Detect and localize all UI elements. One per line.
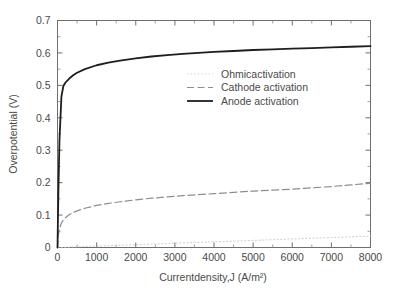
y-axis-label: Overpotential (V) [7,94,19,173]
y-axis-tick-labels: 00.10.20.30.40.50.60.7 [36,14,51,253]
legend-label-2: Anode activation [221,95,299,107]
y-tick-label: 0.2 [36,176,51,188]
y-tick-label: 0.1 [36,209,51,221]
x-axis-tick-labels: 010002000300040005000600070008000 [55,251,383,263]
y-tick-label: 0.3 [36,144,51,156]
data-series-group [58,46,371,247]
chart-figure: 010002000300040005000600070008000 00.10.… [0,0,410,297]
y-tick-label: 0 [45,241,51,253]
x-axis-ticks [58,21,371,248]
x-tick-label: 6000 [281,251,305,263]
y-tick-label: 0.4 [36,112,51,124]
x-tick-label: 3000 [163,251,187,263]
x-axis-label: Currentdensity,J (A/m²) [159,271,267,283]
x-tick-label: 8000 [359,251,383,263]
x-tick-label: 7000 [320,251,344,263]
plot-frame [58,21,371,248]
series-line-2 [58,46,371,247]
x-tick-label: 5000 [241,251,265,263]
y-axis-ticks [58,21,371,248]
x-tick-label: 2000 [124,251,148,263]
y-tick-label: 0.5 [36,79,51,91]
legend-label-1: Cathode activation [221,81,308,93]
y-tick-label: 0.6 [36,47,51,59]
legend-label-0: Ohmicactivation [221,68,296,80]
chart-legend: OhmicactivationCathode activationAnode a… [187,68,308,107]
y-tick-label: 0.7 [36,14,51,26]
x-tick-label: 0 [55,251,61,263]
x-tick-label: 4000 [202,251,226,263]
chart-canvas: 010002000300040005000600070008000 00.10.… [0,0,410,297]
x-tick-label: 1000 [85,251,109,263]
